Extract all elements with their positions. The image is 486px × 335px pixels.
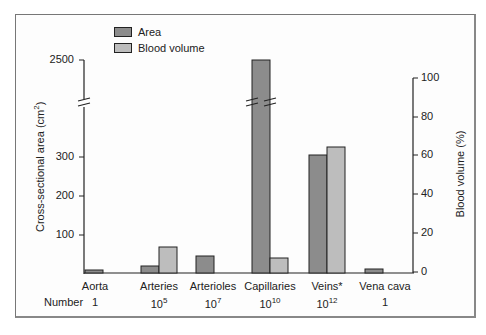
bar-area-vena-cava xyxy=(365,269,383,273)
number-aorta: 1 xyxy=(70,296,120,308)
left-tick-2500: 2500 xyxy=(34,53,74,65)
number-arterioles: 107 xyxy=(188,296,238,310)
right-tick-40: 40 xyxy=(421,187,433,199)
bar-area-veins xyxy=(309,155,327,273)
bar-area-aorta xyxy=(85,270,103,273)
bar-bv-arteries xyxy=(159,247,177,273)
left-axis-title: Cross-sectional area (cm2) xyxy=(32,97,46,237)
right-tick-60: 60 xyxy=(421,148,433,160)
category-aorta: Aorta xyxy=(60,280,130,292)
right-tick-20: 20 xyxy=(421,226,433,238)
number-vena-cava: 1 xyxy=(360,296,410,308)
right-axis-title: Blood volume (%) xyxy=(454,124,466,224)
right-tick-80: 80 xyxy=(421,110,433,122)
number-arteries: 105 xyxy=(134,296,184,310)
bar-area-capillaries xyxy=(252,60,270,273)
right-tick-0: 0 xyxy=(421,265,427,277)
right-tick-100: 100 xyxy=(421,71,439,83)
bar-bv-capillaries xyxy=(270,258,288,273)
bar-bv-veins xyxy=(327,147,345,273)
category-vena-cava: Vena cava xyxy=(350,280,420,292)
bar-area-arteries xyxy=(141,266,159,273)
bar-area-arterioles xyxy=(196,256,214,273)
number-veins: 1012 xyxy=(302,296,352,310)
number-capillaries: 1010 xyxy=(245,296,295,310)
